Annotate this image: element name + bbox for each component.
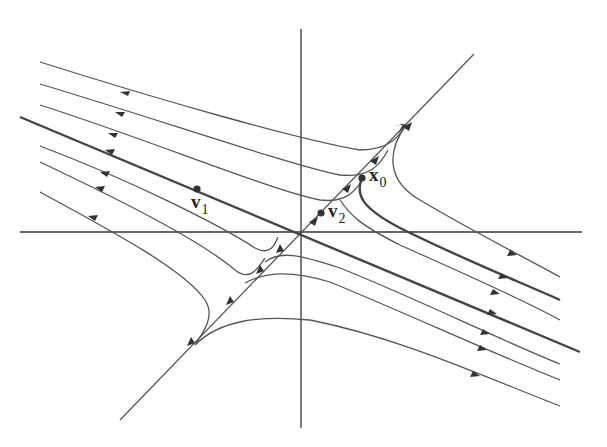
label-v2: v2 [328, 200, 345, 222]
label-v2-sub: 2 [339, 211, 346, 226]
label-x0-sub: 0 [380, 175, 387, 190]
stable-line-arrows [0, 0, 406, 134]
label-x0: x0 [369, 164, 386, 186]
phase-portrait-svg [0, 0, 607, 447]
phase-portrait: v1 v2 x0 [0, 0, 607, 447]
point-x0 [358, 174, 365, 181]
point-v2 [317, 209, 324, 216]
label-v1-base: v [191, 191, 201, 212]
label-v1: v1 [191, 191, 208, 213]
label-x0-base: x [369, 164, 379, 185]
eigenline-v1 [20, 117, 580, 352]
label-v2-base: v [328, 200, 338, 221]
arrowheads-right [470, 250, 517, 377]
trajectories-upper-left [40, 62, 406, 345]
label-v1-sub: 1 [202, 202, 209, 217]
